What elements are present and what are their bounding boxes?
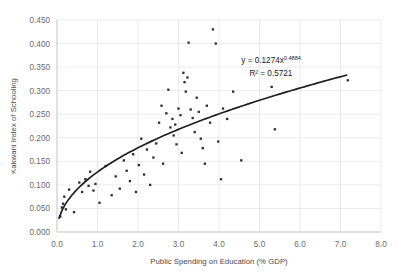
y-axis-title: Kakwani Index of Schooling: [9, 78, 18, 174]
data-point: [167, 89, 169, 91]
y-axis-tick-labels: 0.0000.0500.1000.1500.2000.2500.3000.350…: [30, 16, 51, 237]
data-point: [152, 156, 154, 158]
data-point: [138, 164, 140, 166]
scatter-chart: 0.0000.0500.1000.1500.2000.2500.3000.350…: [0, 0, 406, 277]
y-tick-label: 0.400: [30, 40, 51, 49]
x-tick-label: 6.0: [294, 240, 306, 249]
data-point: [187, 41, 189, 43]
y-tick-label: 0.000: [30, 228, 51, 237]
data-point: [78, 181, 80, 183]
data-point: [179, 114, 181, 116]
data-point: [240, 159, 242, 161]
data-point: [94, 183, 96, 185]
data-point: [62, 203, 64, 205]
data-point: [149, 184, 151, 186]
x-tick-label: 1.0: [92, 240, 104, 249]
data-point: [146, 148, 148, 150]
y-tick-label: 0.450: [30, 16, 51, 25]
x-tick-label: 4.0: [213, 240, 225, 249]
data-point: [200, 138, 202, 140]
data-point: [232, 90, 234, 92]
data-point: [89, 171, 91, 173]
data-point: [202, 147, 204, 149]
data-point: [81, 191, 83, 193]
data-point: [123, 159, 125, 161]
data-point: [115, 175, 117, 177]
data-point: [155, 142, 157, 144]
x-tick-label: 8.0: [375, 240, 387, 249]
data-point: [177, 107, 179, 109]
x-tick-label: 5.0: [254, 240, 266, 249]
vertical-gridlines: [57, 20, 381, 232]
data-point: [111, 194, 113, 196]
data-point: [63, 196, 65, 198]
data-point: [87, 185, 89, 187]
data-point: [162, 163, 164, 165]
data-point: [73, 211, 75, 213]
data-point: [181, 152, 183, 154]
y-tick-label: 0.150: [30, 157, 51, 166]
x-tick-label: 0.0: [51, 240, 63, 249]
data-point: [132, 153, 134, 155]
data-point: [98, 202, 100, 204]
regression-equation-base: y = 0.1274x: [241, 56, 284, 65]
data-point: [158, 122, 160, 124]
data-point: [174, 123, 176, 125]
y-tick-label: 0.200: [30, 134, 51, 143]
data-point: [143, 173, 145, 175]
data-point: [274, 128, 276, 130]
data-point: [204, 163, 206, 165]
regression-equation-exponent: 0.4884: [284, 55, 301, 61]
x-tick-label: 3.0: [173, 240, 185, 249]
data-point: [196, 97, 198, 99]
data-point: [182, 72, 184, 74]
data-point: [186, 76, 188, 78]
y-tick-label: 0.350: [30, 63, 51, 72]
x-tick-label: 2.0: [132, 240, 144, 249]
data-point: [209, 122, 211, 124]
y-tick-label: 0.050: [30, 204, 51, 213]
data-point: [126, 170, 128, 172]
data-point: [192, 117, 194, 119]
data-point: [140, 138, 142, 140]
data-point: [172, 134, 174, 136]
data-point: [119, 188, 121, 190]
data-point: [169, 126, 171, 128]
data-point: [198, 111, 200, 113]
data-point: [171, 118, 173, 120]
chart-canvas: 0.0000.0500.1000.1500.2000.2500.3000.350…: [0, 0, 406, 277]
r-squared-label: R² = 0.5721: [249, 69, 292, 78]
data-point: [220, 178, 222, 180]
data-point: [165, 112, 167, 114]
data-point: [190, 108, 192, 110]
data-point: [175, 143, 177, 145]
data-point: [65, 208, 67, 210]
y-tick-label: 0.250: [30, 110, 51, 119]
data-point: [347, 79, 349, 81]
data-point: [129, 180, 131, 182]
data-point: [215, 42, 217, 44]
data-point: [226, 118, 228, 120]
trendline: [59, 75, 347, 218]
data-point: [222, 107, 224, 109]
x-axis-tick-labels: 0.01.02.03.04.05.06.07.08.0: [51, 240, 387, 249]
x-axis-title: Public Spending on Education (% GDP): [150, 257, 288, 266]
y-tick-label: 0.300: [30, 87, 51, 96]
data-point: [68, 188, 70, 190]
data-point: [271, 86, 273, 88]
data-point: [185, 90, 187, 92]
data-point: [183, 81, 185, 83]
data-point: [212, 28, 214, 30]
data-point: [160, 105, 162, 107]
data-point: [206, 105, 208, 107]
regression-equation-label: y = 0.1274x0.4884: [241, 55, 301, 65]
data-point: [135, 191, 137, 193]
data-point: [217, 140, 219, 142]
x-tick-label: 7.0: [335, 240, 347, 249]
data-points: [59, 28, 349, 217]
data-point: [92, 189, 94, 191]
y-tick-label: 0.100: [30, 181, 51, 190]
data-point: [194, 131, 196, 133]
